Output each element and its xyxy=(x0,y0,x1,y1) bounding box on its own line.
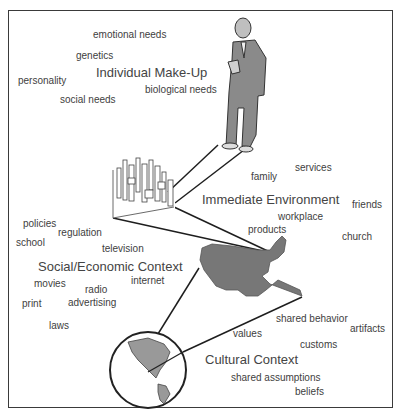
level-title-immediate: Immediate Environment xyxy=(202,193,339,206)
term-shared-behavior: shared behavior xyxy=(276,314,348,324)
term-biological-needs: biological needs xyxy=(145,85,217,95)
term-print: print xyxy=(22,299,41,309)
term-movies: movies xyxy=(34,279,66,289)
globe xyxy=(110,332,186,408)
term-school: school xyxy=(16,238,45,248)
term-laws: laws xyxy=(49,321,69,331)
term-shared-assumptions: shared assumptions xyxy=(231,373,321,383)
term-church: church xyxy=(342,232,372,242)
term-family: family xyxy=(251,172,277,182)
person-figure xyxy=(222,18,266,152)
term-services: services xyxy=(295,163,332,173)
diagram-illustrations xyxy=(0,0,402,416)
term-regulation: regulation xyxy=(58,228,102,238)
level-title-social-economic: Social/Economic Context xyxy=(38,260,183,273)
level-title-individual: Individual Make-Up xyxy=(96,66,207,79)
term-radio: radio xyxy=(85,285,107,295)
term-artifacts: artifacts xyxy=(350,324,385,334)
term-social-needs: social needs xyxy=(60,95,116,105)
term-personality: personality xyxy=(18,76,66,86)
usa-map xyxy=(200,236,302,296)
level-title-cultural: Cultural Context xyxy=(205,353,298,366)
term-workplace: workplace xyxy=(278,212,323,222)
term-values: values xyxy=(233,329,262,339)
term-internet: internet xyxy=(131,276,164,286)
term-emotional-needs: emotional needs xyxy=(93,30,166,40)
term-policies: policies xyxy=(23,219,56,229)
term-friends: friends xyxy=(352,200,382,210)
term-customs: customs xyxy=(300,340,337,350)
city-skyline xyxy=(113,158,175,218)
term-television: television xyxy=(102,244,144,254)
term-products: products xyxy=(248,225,286,235)
term-genetics: genetics xyxy=(76,51,113,61)
term-beliefs: beliefs xyxy=(295,387,324,397)
term-advertising: advertising xyxy=(68,298,116,308)
